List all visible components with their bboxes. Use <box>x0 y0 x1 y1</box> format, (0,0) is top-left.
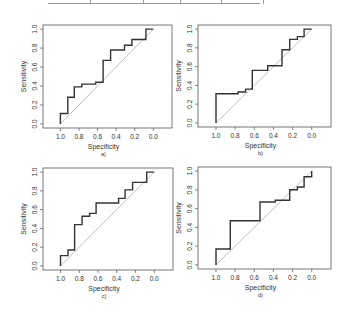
x-tick-label: 0.0 <box>307 132 316 139</box>
x-tick-label: 0.8 <box>231 274 240 281</box>
panel-label: d) <box>258 292 263 298</box>
roc-plot-a: 1.00.80.60.40.20.00.00.20.40.60.81.0Spec… <box>20 24 172 157</box>
y-tick-label: 0.0 <box>31 261 38 270</box>
y-tick-label: 0.8 <box>186 185 193 194</box>
plot-frame <box>198 167 331 269</box>
y-axis-label: Sensitivity <box>20 203 28 235</box>
x-tick-label: 0.4 <box>112 133 121 140</box>
x-tick-label: 1.0 <box>56 133 65 140</box>
y-tick-label: 1.0 <box>186 24 193 33</box>
x-tick-label: 0.6 <box>250 132 259 139</box>
plot-frame <box>198 25 331 127</box>
y-axis-label: Sensitivity <box>175 60 183 92</box>
y-tick-label: 0.4 <box>31 223 38 232</box>
x-tick-label: 0.6 <box>250 274 259 281</box>
y-tick-label: 0.8 <box>186 43 193 52</box>
reference-diagonal <box>61 172 155 266</box>
y-axis-label: Sensitivity <box>175 202 183 234</box>
roc-curves-figure: 1.00.80.60.40.20.00.00.20.40.60.81.0Spec… <box>0 0 350 318</box>
x-axis-label: Specificity <box>88 143 120 151</box>
x-tick-label: 0.8 <box>74 133 83 140</box>
reference-diagonal <box>216 171 312 265</box>
roc-plot-c: 1.00.80.60.40.20.00.00.20.40.60.81.0Spec… <box>20 167 173 299</box>
x-axis-label: Specificity <box>245 284 277 292</box>
y-tick-label: 0.2 <box>31 100 38 109</box>
y-tick-label: 0.8 <box>31 43 38 52</box>
y-tick-label: 0.4 <box>31 81 38 90</box>
x-tick-label: 0.6 <box>93 275 102 282</box>
y-tick-label: 0.4 <box>186 222 193 231</box>
panel-label: b) <box>258 150 263 156</box>
x-tick-label: 0.2 <box>130 133 139 140</box>
y-tick-label: 0.6 <box>186 62 193 71</box>
plot-frame <box>43 168 173 270</box>
x-tick-label: 0.0 <box>307 274 316 281</box>
x-axis-label: Specificity <box>88 285 120 293</box>
reference-diagonal <box>60 29 153 124</box>
x-tick-label: 0.2 <box>288 274 297 281</box>
y-tick-label: 0.8 <box>31 186 38 195</box>
roc-plot-d: 1.00.80.60.40.20.00.00.20.40.60.81.0Spec… <box>175 166 331 298</box>
panel-label: c) <box>102 293 107 299</box>
x-tick-label: 0.0 <box>149 133 158 140</box>
x-axis-label: Specificity <box>245 142 277 150</box>
y-tick-label: 0.6 <box>31 205 38 214</box>
x-tick-label: 0.4 <box>112 275 121 282</box>
y-tick-label: 1.0 <box>31 167 38 176</box>
x-tick-label: 0.2 <box>131 275 140 282</box>
roc-plot-b: 1.00.80.60.40.20.00.00.20.40.60.81.0Spec… <box>175 24 331 156</box>
y-tick-label: 0.0 <box>186 118 193 127</box>
x-tick-label: 0.8 <box>231 132 240 139</box>
y-tick-label: 1.0 <box>186 166 193 175</box>
reference-diagonal <box>216 29 312 123</box>
y-tick-label: 0.0 <box>31 119 38 128</box>
y-tick-label: 0.6 <box>31 62 38 71</box>
x-tick-label: 0.0 <box>150 275 159 282</box>
x-tick-label: 0.4 <box>269 132 278 139</box>
plot-frame <box>43 25 172 128</box>
y-tick-label: 0.6 <box>186 204 193 213</box>
y-tick-label: 1.0 <box>31 24 38 33</box>
y-tick-label: 0.0 <box>186 260 193 269</box>
x-tick-label: 0.8 <box>75 275 84 282</box>
x-tick-label: 0.4 <box>269 274 278 281</box>
panel-label: a) <box>101 151 106 157</box>
y-axis-label: Sensitivity <box>20 60 28 92</box>
x-tick-label: 1.0 <box>56 275 65 282</box>
x-tick-label: 1.0 <box>211 274 220 281</box>
y-tick-label: 0.2 <box>186 99 193 108</box>
y-tick-label: 0.2 <box>31 242 38 251</box>
x-tick-label: 0.2 <box>288 132 297 139</box>
y-tick-label: 0.2 <box>186 241 193 250</box>
x-tick-label: 1.0 <box>211 132 220 139</box>
y-tick-label: 0.4 <box>186 80 193 89</box>
x-tick-label: 0.6 <box>93 133 102 140</box>
